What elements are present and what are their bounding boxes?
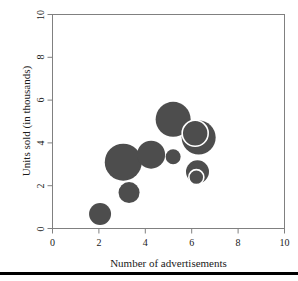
x-tick-label: 0 — [43, 238, 63, 248]
y-tick-label: 10 — [36, 7, 46, 23]
x-axis-title: Number of advertisements — [52, 257, 285, 270]
x-tick-label: 8 — [228, 238, 248, 248]
bubble-marker — [89, 203, 111, 225]
bubble-marker — [189, 170, 204, 185]
x-tick-label: 4 — [135, 238, 155, 248]
y-tick-label: 0 — [36, 221, 46, 237]
x-tick-label: 2 — [89, 238, 109, 248]
bottom-rule-divider — [0, 272, 298, 275]
bubble-marker — [105, 144, 142, 181]
y-tick-label: 2 — [36, 178, 46, 194]
y-tick-label: 6 — [36, 92, 46, 108]
y-axis-title: Units sold (in thousands) — [18, 14, 34, 228]
x-tick-label: 6 — [182, 238, 202, 248]
y-tick-label: 4 — [36, 135, 46, 151]
x-tick-label: 10 — [275, 238, 295, 248]
bubble-marker — [137, 141, 165, 169]
bubble-chart-figure: 0246810 0246810 Units sold (in thousands… — [0, 0, 298, 281]
bubble-marker — [182, 120, 208, 146]
y-tick-label: 8 — [36, 49, 46, 65]
bubble-marker — [119, 182, 140, 203]
y-axis-ticks — [48, 15, 53, 229]
x-axis-ticks — [53, 229, 285, 234]
bubble-marker — [166, 149, 181, 164]
